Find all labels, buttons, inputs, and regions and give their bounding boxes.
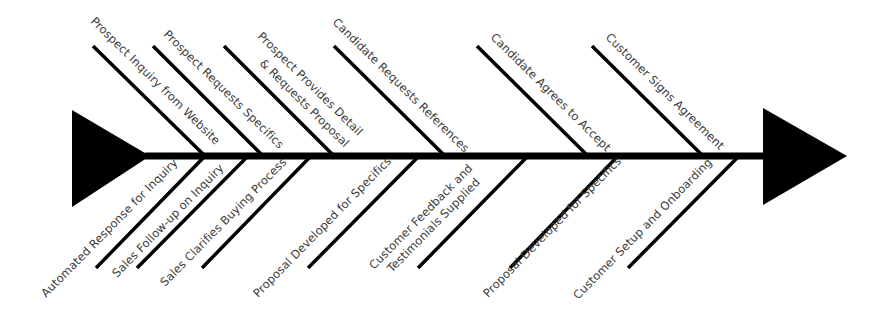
head-arrow-icon [763, 108, 847, 205]
bottom-bone: Automated Response for Inquiry [38, 156, 205, 301]
bottom-bone-label: Sales Clarifies Buying Process [157, 155, 289, 289]
fishbone-diagram: Prospect Inquiry from Website Prospect R… [0, 0, 886, 317]
top-bone-label: Prospect Provides Detail [255, 29, 366, 138]
bottom-bone-label: Customer Feedback and [366, 161, 475, 272]
top-bone-label: Candidate Requests References [330, 15, 472, 155]
top-bone: Customer Signs Agreement [592, 30, 727, 156]
top-bone: Candidate Requests References [330, 15, 472, 156]
top-bone-label: Customer Signs Agreement [603, 30, 728, 153]
bottom-bone: Customer Feedback and Testimonials Suppl… [366, 156, 528, 276]
top-bone-label: Prospect Inquiry from Website [88, 14, 223, 147]
bottom-bone-label: Testimonials Supplied [383, 175, 482, 276]
